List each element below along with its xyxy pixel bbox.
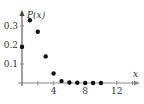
x-tick-label: 8: [82, 86, 88, 96]
x-tick-label: 12: [111, 86, 122, 96]
data-point: [67, 80, 71, 84]
x-axis-label: x: [133, 69, 138, 79]
data-point: [99, 81, 103, 85]
y-tick-label: 0.1: [4, 59, 18, 69]
data-point: [91, 81, 95, 85]
y-tick-label: 0.2: [4, 40, 18, 50]
data-point: [44, 54, 48, 58]
data-point: [51, 71, 55, 75]
y-axis-label: P(x): [26, 10, 46, 20]
x-tick-label: 4: [51, 86, 57, 96]
x-axis-arrow-icon: [134, 81, 140, 86]
data-point: [75, 81, 79, 85]
data-point: [20, 45, 24, 49]
data-point: [59, 79, 63, 83]
data-point: [36, 30, 40, 34]
y-tick-label: 0.3: [4, 21, 19, 31]
probability-scatter-chart: 0.10.20.3 4812 P(x) x: [0, 0, 144, 104]
data-points: [20, 18, 103, 85]
y-axis-arrow-icon: [20, 10, 25, 16]
data-point: [83, 81, 87, 85]
